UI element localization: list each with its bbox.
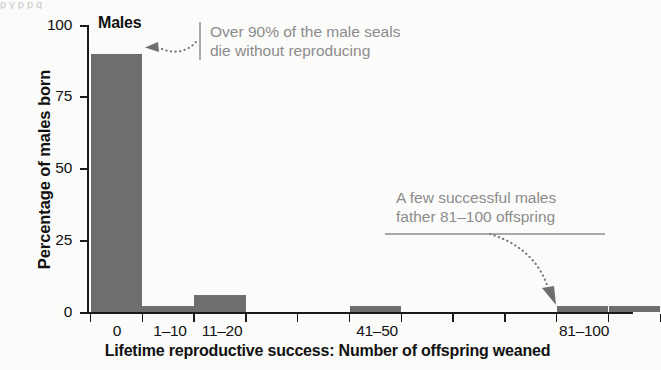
annotation-high-success-rule (385, 233, 605, 235)
y-tick-100 (80, 25, 87, 27)
y-tick-label-50: 50 (32, 160, 72, 176)
annotation-high-success-line2: father 81–100 offspring (396, 207, 556, 226)
x-tick-label-41-50: 41–50 (356, 322, 398, 340)
x-tick-0 (90, 314, 92, 322)
arrow-1-head (145, 42, 159, 52)
bar-91-100 (609, 306, 661, 312)
x-tick-8 (504, 314, 506, 322)
bar-0 (91, 54, 143, 312)
y-tick-0 (80, 312, 87, 314)
x-axis-line (87, 312, 633, 314)
x-tick-label-81-100: 81–100 (559, 322, 609, 340)
annotation-low-success: Over 90% of the male seals die without r… (199, 22, 400, 60)
y-tick-50 (80, 168, 87, 170)
page-bleed-text: p y p p g (0, 0, 655, 9)
annotation-low-success-line1: Over 90% of the male seals (210, 22, 400, 41)
x-tick-9 (556, 314, 558, 322)
annotation-high-success-line1: A few successful males (396, 188, 556, 207)
y-tick-label-25: 25 (32, 232, 72, 248)
bar-1-10 (142, 306, 194, 312)
x-tick-label-1-10: 1–10 (153, 322, 186, 340)
x-tick-label-0: 0 (113, 322, 121, 340)
x-axis-title: Lifetime reproductive success: Number of… (0, 342, 655, 360)
annotation-low-success-line2: die without reproducing (210, 41, 400, 60)
arrow-1-path (160, 42, 196, 52)
arrow-2-path (490, 234, 548, 288)
y-tick-25 (80, 240, 87, 242)
y-tick-label-75: 75 (32, 88, 72, 104)
bar-11-20 (194, 295, 246, 312)
x-tick-2 (193, 314, 195, 322)
y-tick-75 (80, 96, 87, 98)
x-tick-7 (452, 314, 454, 322)
y-tick-label-100: 100 (32, 17, 72, 33)
x-tick-1 (142, 314, 144, 322)
x-tick-6 (401, 314, 403, 322)
y-axis-line (87, 25, 89, 314)
bar-81-90 (557, 306, 609, 312)
x-tick-4 (297, 314, 299, 322)
annotation-high-success: A few successful males father 81–100 off… (396, 188, 556, 226)
x-tick-10 (608, 314, 610, 322)
bar-41-50 (350, 306, 402, 312)
x-tick-5 (349, 314, 351, 322)
x-tick-3 (245, 314, 247, 322)
arrow-2-head (542, 286, 556, 305)
x-tick-label-11-20: 11–20 (202, 322, 242, 340)
y-tick-label-0: 0 (32, 304, 72, 320)
series-title: Males (98, 14, 141, 32)
